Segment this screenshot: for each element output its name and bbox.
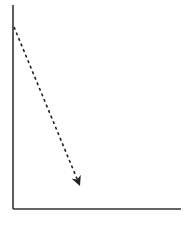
axes-diagram [0, 0, 192, 232]
diagram-canvas [0, 0, 192, 232]
dashed-arrow [14, 27, 78, 182]
